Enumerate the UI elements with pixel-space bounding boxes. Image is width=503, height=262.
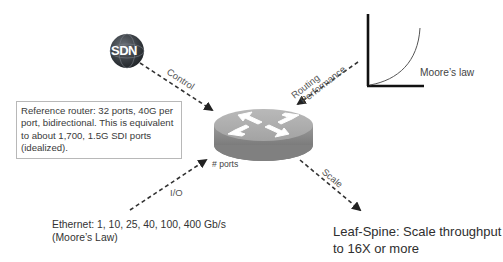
ethernet-line-1: Ethernet: 1, 10, 25, 40, 100, 400 Gb/s xyxy=(52,218,226,231)
io-arrow xyxy=(130,160,206,210)
router-icon xyxy=(214,109,313,161)
ethernet-line-2: (Moore’s Law) xyxy=(52,231,226,244)
ports-label: # ports xyxy=(212,159,238,169)
leaf-spine-line-2: to 16X or more xyxy=(333,241,501,258)
ethernet-note: Ethernet: 1, 10, 25, 40, 100, 400 Gb/s (… xyxy=(52,218,226,244)
reference-router-note: Reference router: 32 ports, 40G per port… xyxy=(16,101,182,159)
moores-law-label: Moore’s law xyxy=(420,67,474,78)
moores-law-chart-icon xyxy=(367,14,424,86)
scale-arrow xyxy=(300,160,360,210)
leaf-spine-note: Leaf-Spine: Scale throughput to 16X or m… xyxy=(333,224,501,257)
sdn-label: SDN xyxy=(111,43,137,58)
leaf-spine-line-1: Leaf-Spine: Scale throughput xyxy=(333,224,501,241)
io-label: I/O xyxy=(170,187,183,198)
